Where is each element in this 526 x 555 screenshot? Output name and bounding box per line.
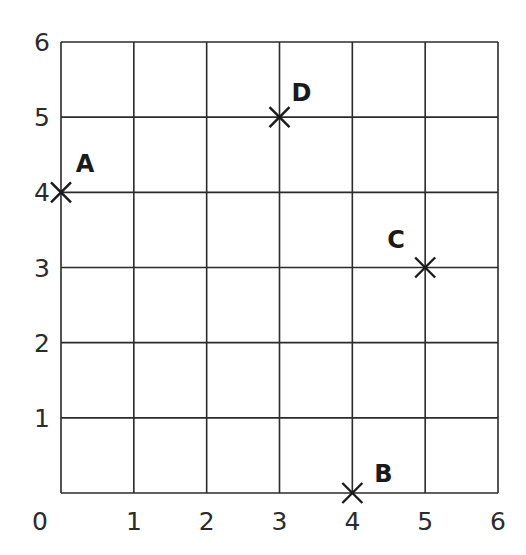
point-d: D [270, 79, 312, 127]
point-label: B [374, 460, 392, 488]
point-label: A [76, 150, 95, 178]
x-axis-tick-labels: 0123456 [32, 507, 506, 536]
x-tick-label: 6 [490, 507, 506, 536]
x-tick-label: 0 [32, 507, 48, 536]
point-label: D [292, 79, 312, 107]
coordinate-grid: 0123456 123456 ABCD [0, 0, 526, 555]
y-tick-label: 3 [34, 254, 50, 283]
x-tick-label: 1 [126, 507, 142, 536]
y-tick-label: 2 [34, 329, 50, 358]
grid-lines [61, 42, 498, 493]
x-tick-label: 4 [344, 507, 360, 536]
y-axis-tick-labels: 123456 [34, 28, 50, 433]
x-tick-label: 3 [272, 507, 288, 536]
y-tick-label: 6 [34, 28, 50, 57]
y-tick-label: 1 [34, 404, 50, 433]
y-tick-label: 4 [34, 178, 50, 207]
point-b: B [342, 460, 392, 503]
point-a: A [51, 150, 95, 202]
point-label: C [387, 226, 405, 254]
plotted-points: ABCD [51, 79, 435, 503]
x-tick-label: 2 [199, 507, 215, 536]
x-tick-label: 5 [417, 507, 433, 536]
y-tick-label: 5 [34, 103, 50, 132]
point-c: C [387, 226, 435, 278]
